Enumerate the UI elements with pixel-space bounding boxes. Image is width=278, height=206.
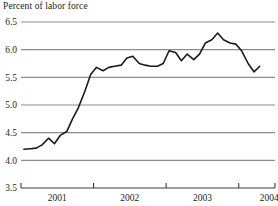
- y-tick-label: 3.5: [5, 183, 17, 193]
- y-tick-label: 6.5: [5, 17, 17, 27]
- x-tick-label: 2004: [260, 193, 278, 203]
- y-tick-label: 5.0: [5, 100, 17, 110]
- y-tick-label: 6.0: [5, 45, 17, 55]
- line-chart-plot: 3.54.04.55.05.56.06.5 2001200220032004: [0, 0, 278, 206]
- y-tick-label: 4.0: [5, 156, 17, 166]
- y-tick-label: 4.5: [5, 128, 17, 138]
- gridlines: [21, 22, 275, 160]
- chart-container: Percent of labor force 3.54.04.55.05.56.…: [0, 0, 278, 206]
- x-tick-label: 2001: [48, 193, 67, 203]
- x-axis-tick-labels: 2001200220032004: [48, 193, 278, 203]
- y-tick-label: 5.5: [5, 73, 17, 83]
- y-axis-tick-labels: 3.54.04.55.05.56.06.5: [5, 17, 17, 193]
- x-tick-label: 2003: [193, 193, 212, 203]
- x-tick-label: 2002: [120, 193, 139, 203]
- data-line-unemployment-rate: [24, 33, 260, 149]
- x-axis: [21, 183, 275, 188]
